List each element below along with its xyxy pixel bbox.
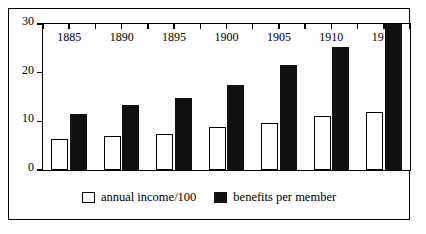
bar [156,134,173,171]
x-axis-boundary-tick [42,24,44,29]
y-axis-tick-mark [37,169,43,171]
legend-item: annual income/100 [82,190,196,204]
bar [227,85,244,170]
bar [261,123,278,170]
x-axis-boundary-tick [409,24,411,29]
bar [209,127,226,170]
plot-area: 0102030 1885189018951900190519101913 [42,23,411,171]
legend-swatch [214,192,227,203]
y-axis-tick-mark [37,121,43,123]
bar-group [261,24,297,170]
x-axis-boundary-tick [252,24,254,29]
bar-group [314,24,350,170]
bar-group [156,24,192,170]
y-axis-tick-label: 10 [22,112,34,124]
bar-group [209,24,245,170]
y-axis-tick-label: 20 [22,64,34,76]
x-axis-boundary-tick [200,24,202,29]
legend-item: benefits per member [214,190,336,204]
bar [70,114,87,170]
bar [314,116,331,170]
legend-label: annual income/100 [101,190,196,204]
x-axis-boundary-tick [95,24,97,29]
bar-group [51,24,87,170]
figure-frame: 0102030 1885189018951900190519101913 ann… [8,8,410,220]
x-axis-boundary-tick [147,24,149,29]
y-axis-tick-mark [37,72,43,74]
bar-group [366,24,402,170]
bar [104,136,121,170]
bar [385,24,402,170]
bar [332,47,349,170]
bar [122,105,139,170]
y-axis-tick-label: 0 [28,161,34,173]
bar [51,139,68,170]
y-axis-tick-label: 30 [22,15,34,27]
bar [366,112,383,170]
x-axis-boundary-tick [357,24,359,29]
legend-swatch [82,192,95,203]
bar [280,65,297,170]
bar [175,98,192,170]
legend-label: benefits per member [233,190,336,204]
bar-group [104,24,140,170]
chart-legend: annual income/100benefits per member [9,187,409,207]
x-axis-boundary-tick [304,24,306,29]
